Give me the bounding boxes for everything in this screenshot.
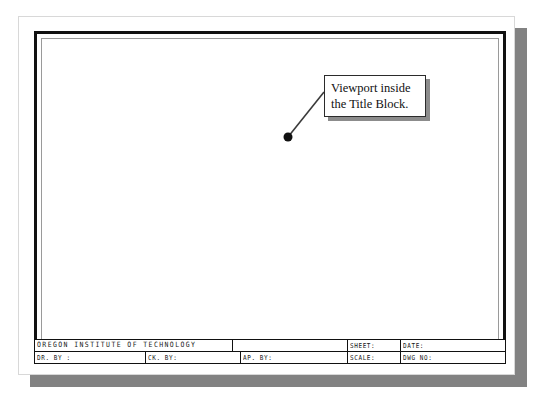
organization-label: OREGON INSTITUTE OF TECHNOLOGY [37, 342, 196, 350]
title-block-cell-checked-by[interactable]: CK. BY: [146, 352, 241, 363]
title-block-top-row: OREGON INSTITUTE OF TECHNOLOGY SHEET: DA… [35, 340, 505, 352]
sheet-label: SHEET: [350, 342, 375, 350]
drawing-number-label: DWG NO: [403, 354, 433, 362]
title-block-cell-date[interactable]: DATE: [401, 340, 505, 351]
title-block-cell-drawing-title[interactable] [233, 340, 348, 351]
title-block-cell-organization[interactable]: OREGON INSTITUTE OF TECHNOLOGY [35, 340, 233, 351]
title-block[interactable]: OREGON INSTITUTE OF TECHNOLOGY SHEET: DA… [34, 339, 506, 364]
checked-by-label: CK. BY: [148, 354, 178, 362]
approved-by-label: AP. BY: [243, 354, 273, 362]
date-label: DATE: [403, 342, 424, 350]
title-block-bottom-row: DR. BY : CK. BY: AP. BY: SCALE: DWG NO: [35, 352, 505, 363]
scale-label: SCALE: [350, 354, 375, 362]
paper-sheet: OREGON INSTITUTE OF TECHNOLOGY SHEET: DA… [18, 16, 515, 375]
drawn-by-label: DR. BY : [37, 354, 71, 362]
title-block-cell-sheet[interactable]: SHEET: [348, 340, 401, 351]
drawing-viewport-frame[interactable] [41, 38, 499, 356]
drawing-sheet-screen: OREGON INSTITUTE OF TECHNOLOGY SHEET: DA… [0, 0, 541, 407]
sheet-outer-border [34, 31, 506, 363]
title-block-cell-drawing-number[interactable]: DWG NO: [401, 352, 505, 363]
callout-box: Viewport inside the Title Block. [324, 75, 426, 117]
title-block-cell-approved-by[interactable]: AP. BY: [241, 352, 348, 363]
title-block-cell-scale[interactable]: SCALE: [348, 352, 401, 363]
title-block-cell-drawn-by[interactable]: DR. BY : [35, 352, 146, 363]
callout-text: Viewport inside the Title Block. [331, 80, 420, 112]
